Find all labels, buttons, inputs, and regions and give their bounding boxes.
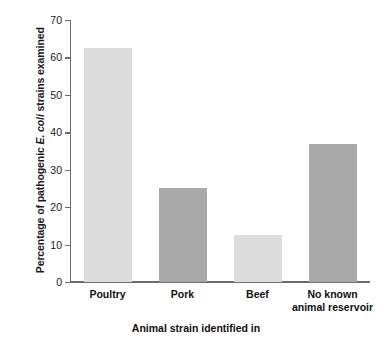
tick-label: 40 xyxy=(22,126,62,138)
tick-label: 10 xyxy=(22,239,62,251)
category-label-line: animal reservoir xyxy=(292,301,373,313)
tick-label: 0 xyxy=(22,276,62,288)
plot-area: 010203040506070 PoultryPorkBeefNo knowna… xyxy=(70,20,370,282)
tick-label: 70 xyxy=(22,14,62,26)
tick-mark xyxy=(65,20,70,21)
bar-chart-figure: Percentage of pathogenic E. coli strains… xyxy=(0,0,392,352)
category-label-line: Beef xyxy=(246,288,269,300)
bar-pork xyxy=(159,188,207,282)
category-label-no-known-animal-reservoir: No knownanimal reservoir xyxy=(289,288,376,313)
tick-mark xyxy=(65,170,70,171)
tick-label: 20 xyxy=(22,201,62,213)
tick-mark xyxy=(65,95,70,96)
tick-mark xyxy=(65,57,70,58)
bar-beef xyxy=(234,235,282,282)
category-label-line: Pork xyxy=(171,288,194,300)
category-label-line: No known xyxy=(307,288,357,300)
tick-label: 60 xyxy=(22,51,62,63)
category-label-line: Poultry xyxy=(89,288,125,300)
category-label-beef: Beef xyxy=(214,288,301,301)
bar-poultry xyxy=(84,48,132,282)
tick-label: 50 xyxy=(22,89,62,101)
y-axis-title: Percentage of pathogenic E. coli strains… xyxy=(35,0,46,300)
x-axis-title: Animal strain identified in xyxy=(0,322,392,334)
tick-mark xyxy=(65,282,70,283)
category-label-pork: Pork xyxy=(139,288,226,301)
tick-mark xyxy=(65,207,70,208)
tick-label: 30 xyxy=(22,164,62,176)
tick-mark xyxy=(65,132,70,133)
y-axis-line xyxy=(70,20,71,282)
bar-no-known-animal-reservoir xyxy=(309,144,357,282)
tick-mark xyxy=(65,245,70,246)
category-label-poultry: Poultry xyxy=(64,288,151,301)
